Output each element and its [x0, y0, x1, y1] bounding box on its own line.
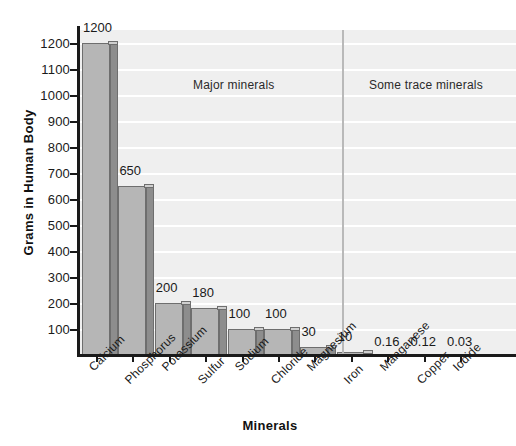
- bar-value-label: 0.12: [411, 335, 436, 348]
- bar-value-label: 650: [119, 164, 141, 177]
- y-axis-tick: [70, 277, 78, 279]
- y-axis-tick: [70, 69, 78, 71]
- y-axis-tick: [70, 225, 78, 227]
- gridline: [80, 43, 516, 45]
- gridline: [80, 69, 516, 71]
- bar-side-face: [219, 308, 227, 355]
- bar-top-face: [181, 301, 191, 305]
- annotation-major-minerals: Major minerals: [193, 78, 275, 92]
- y-axis-title: Grams in Human Body: [21, 93, 36, 273]
- gridline: [80, 147, 516, 149]
- bar-value-label: 1200: [83, 21, 112, 34]
- y-axis-line: [77, 26, 80, 357]
- y-axis-tick: [70, 199, 78, 201]
- y-axis-tick-label: 300: [18, 271, 70, 284]
- y-axis-tick: [70, 43, 78, 45]
- bar: [118, 178, 154, 355]
- bar-front-face: [118, 186, 146, 355]
- bar-top-face: [108, 41, 118, 45]
- y-axis-tick: [70, 251, 78, 253]
- mineral-content-bar-chart: Major minerals Some trace minerals 10020…: [0, 0, 516, 446]
- y-axis-tick: [70, 173, 78, 175]
- x-axis-tick: [351, 357, 353, 362]
- bar-top-face: [254, 327, 264, 331]
- y-axis-tick-label: 1100: [18, 63, 70, 76]
- y-axis-tick-label: 100: [18, 323, 70, 336]
- y-axis-tick: [70, 147, 78, 149]
- gridline: [80, 121, 516, 123]
- bar: [82, 35, 118, 355]
- gridline: [80, 95, 516, 97]
- y-axis-tick-label: 1200: [18, 37, 70, 50]
- y-axis-tick: [70, 95, 78, 97]
- x-axis-title: Minerals: [180, 418, 360, 433]
- bar-value-label: 200: [156, 281, 178, 294]
- bar-top-face: [290, 327, 300, 331]
- y-axis-tick: [70, 329, 78, 331]
- bar-top-face: [144, 184, 154, 188]
- bar-value-label: 100: [229, 307, 251, 320]
- x-axis-tick: [205, 357, 207, 362]
- bar-front-face: [82, 43, 110, 355]
- bar-value-label: 30: [301, 325, 315, 338]
- annotation-trace-minerals: Some trace minerals: [369, 78, 483, 92]
- bar-value-label: 100: [265, 307, 287, 320]
- bar-side-face: [110, 43, 118, 355]
- bar-side-face: [146, 186, 154, 355]
- gridline: [80, 173, 516, 175]
- y-axis-tick-label: 200: [18, 297, 70, 310]
- x-axis-tick: [278, 357, 280, 362]
- x-axis-tick: [132, 357, 134, 362]
- x-axis-category-label: Iron: [341, 362, 366, 387]
- group-divider-line: [342, 30, 344, 355]
- bar-top-face: [217, 306, 227, 310]
- x-axis-category-label: Sulfur: [195, 354, 228, 387]
- bar-value-label: 180: [192, 286, 214, 299]
- x-axis-tick: [424, 357, 426, 362]
- y-axis-tick: [70, 303, 78, 305]
- bar-value-label: 10: [338, 330, 352, 343]
- y-axis-tick: [70, 121, 78, 123]
